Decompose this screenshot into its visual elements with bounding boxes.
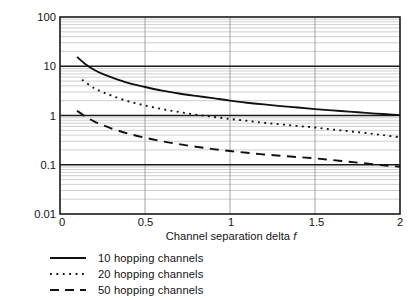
series-line-50-hopping-channels [77, 111, 400, 167]
legend-key-solid-icon [48, 251, 88, 265]
chart-figure: Standard deviation of distance, meters 1… [0, 0, 418, 300]
legend-label-10: 10 hopping channels [98, 252, 203, 264]
legend-label-50: 50 hopping channels [98, 284, 203, 296]
legend-item-50: 50 hopping channels [48, 282, 308, 297]
series-line-20-hopping-channels [82, 80, 400, 138]
legend-label-20: 20 hopping channels [98, 268, 203, 280]
chart-legend: 10 hopping channels 20 hopping channels … [48, 250, 308, 298]
legend-item-10: 10 hopping channels [48, 250, 308, 265]
legend-key-dotted-icon [48, 267, 88, 281]
legend-item-20: 20 hopping channels [48, 266, 308, 281]
legend-key-dashed-icon [48, 283, 88, 297]
